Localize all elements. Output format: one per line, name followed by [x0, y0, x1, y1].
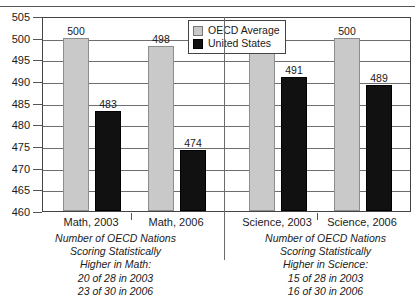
footnote-science-line4: 15 of 28 in 2003	[238, 272, 413, 285]
legend-item-oecd-average: OECD Average	[193, 24, 280, 37]
bar-science-2006-united-states: 489	[366, 85, 392, 211]
legend-swatch-us-icon	[193, 39, 203, 49]
y-tick-mark-500	[33, 39, 42, 40]
footnote-science-line1: Number of OECD Nations	[238, 232, 413, 245]
footnote-math-line1: Number of OECD Nations	[28, 232, 203, 245]
y-tick-mark-475	[33, 147, 42, 148]
footnote-science: Number of OECD Nations Scoring Statistic…	[238, 232, 413, 298]
footnote-science-line2: Scoring Statistically	[238, 245, 413, 258]
x-axis-label-science-2003: Science, 2003	[242, 216, 312, 228]
bar-value-label-math-2006-oecd-average: 498	[152, 34, 170, 45]
legend-label-united-states: United States	[208, 38, 271, 49]
x-axis-separator-tick-1	[131, 213, 132, 220]
top-horizontal-rule	[0, 6, 415, 7]
footnote-science-line5: 16 of 30 in 2006	[238, 285, 413, 298]
legend-item-united-states: United States	[193, 37, 280, 50]
y-tick-mark-495	[33, 60, 42, 61]
y-tick-label-480: 480	[12, 120, 30, 131]
chart-legend: OECD Average United States	[188, 20, 286, 54]
group-divider	[224, 17, 225, 260]
y-tick-mark-505	[33, 17, 42, 18]
footnote-math-line5: 23 of 30 in 2006	[28, 285, 203, 298]
x-axis-label-science-2006: Science, 2006	[327, 216, 397, 228]
y-tick-mark-470	[33, 169, 42, 170]
y-tick-label-465: 465	[12, 185, 30, 196]
legend-label-oecd-average: OECD Average	[208, 25, 280, 36]
y-tick-mark-490	[33, 82, 42, 83]
bar-math-2003-united-states: 483	[95, 111, 121, 211]
x-axis-labels: Math, 2003Math, 2006Science, 2003Science…	[42, 213, 411, 231]
bar-value-label-math-2006-united-states: 474	[184, 138, 202, 149]
footnote-math: Number of OECD Nations Scoring Statistic…	[28, 232, 203, 298]
bar-math-2006-united-states: 474	[180, 150, 206, 211]
x-axis-label-math-2006: Math, 2006	[148, 216, 203, 228]
legend-swatch-oecd-icon	[193, 26, 203, 36]
x-axis-label-math-2003: Math, 2003	[63, 216, 118, 228]
footnote-math-line4: 20 of 28 in 2003	[28, 272, 203, 285]
footnote-math-line3: Higher in Math:	[28, 258, 203, 271]
y-tick-label-470: 470	[12, 163, 30, 174]
bar-value-label-science-2006-united-states: 489	[370, 73, 388, 84]
footnote-science-line3: Higher in Science:	[238, 258, 413, 271]
y-tick-label-460: 460	[12, 207, 30, 218]
y-tick-label-505: 505	[12, 12, 30, 23]
y-axis: 460465470475480485490495500505	[0, 17, 42, 212]
y-tick-label-475: 475	[12, 142, 30, 153]
y-tick-label-500: 500	[12, 33, 30, 44]
y-tick-mark-480	[33, 125, 42, 126]
x-axis-separator-tick-2	[317, 213, 318, 220]
footnote-math-line2: Scoring Statistically	[28, 245, 203, 258]
bar-value-label-math-2003-oecd-average: 500	[67, 26, 85, 37]
y-tick-mark-485	[33, 104, 42, 105]
y-tick-label-485: 485	[12, 98, 30, 109]
bar-value-label-science-2006-oecd-average: 500	[338, 26, 356, 37]
y-tick-mark-460	[33, 212, 42, 213]
bar-value-label-science-2003-united-states: 491	[285, 65, 303, 76]
y-tick-mark-465	[33, 190, 42, 191]
y-tick-label-490: 490	[12, 77, 30, 88]
y-tick-label-495: 495	[12, 55, 30, 66]
bar-science-2003-oecd-average: 500	[249, 38, 275, 211]
bar-math-2006-oecd-average: 498	[148, 46, 174, 211]
bar-science-2006-oecd-average: 500	[334, 38, 360, 211]
bar-value-label-math-2003-united-states: 483	[99, 99, 117, 110]
bar-math-2003-oecd-average: 500	[63, 38, 89, 211]
bar-science-2003-united-states: 491	[281, 77, 307, 211]
